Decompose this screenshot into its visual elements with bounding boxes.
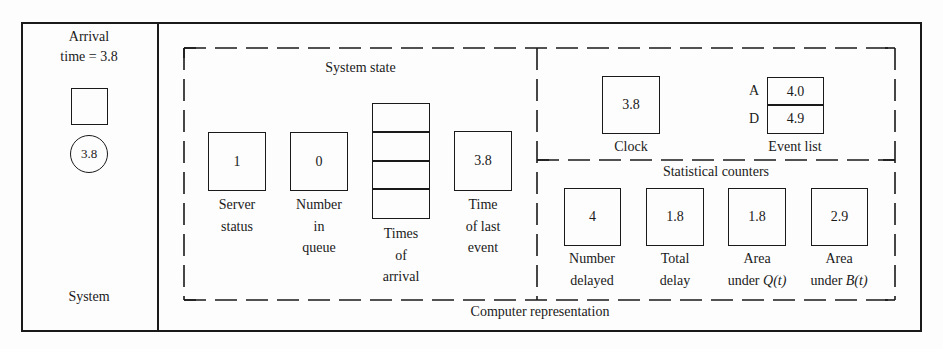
- server-status-box: 1: [208, 132, 266, 191]
- event-time-a: 4.0: [767, 77, 824, 106]
- arrival-slot-1: [372, 103, 430, 133]
- area-under-q-prefix: under: [728, 273, 763, 288]
- clock-box: 3.8: [602, 76, 660, 134]
- system-state-title: System state: [184, 60, 537, 76]
- computer-representation-label: Computer representation: [440, 304, 640, 320]
- number-delayed-label-2: delayed: [552, 271, 632, 291]
- total-delay-label-2: delay: [635, 271, 715, 291]
- arrival-slot-4: [372, 188, 430, 219]
- area-under-b-box: 2.9: [811, 188, 868, 246]
- clock-label: Clock: [591, 137, 671, 157]
- statistical-counters-title: Statistical counters: [537, 164, 895, 180]
- system-label: System: [21, 287, 157, 307]
- arrival-slot-2: [372, 131, 430, 162]
- times-of-arrival-label-2: of: [361, 246, 441, 266]
- customer-circle: 3.8: [70, 135, 108, 173]
- number-in-queue-label-2: in: [279, 217, 359, 237]
- event-type-a: A: [746, 81, 762, 101]
- number-in-queue-label-3: queue: [279, 238, 359, 258]
- area-under-b-prefix: under: [810, 273, 845, 288]
- area-under-q-label-1: Area: [717, 249, 797, 269]
- number-in-queue-label-1: Number: [279, 195, 359, 215]
- area-under-b-label-2: under B(t): [789, 271, 889, 291]
- number-delayed-box: 4: [564, 188, 621, 246]
- server-status-label-2: status: [197, 217, 277, 237]
- arrival-label-line1: Arrival: [21, 27, 157, 47]
- times-of-arrival-label-1: Times: [361, 224, 441, 244]
- area-under-b-var: B(t): [846, 273, 868, 288]
- number-delayed-label-1: Number: [552, 249, 632, 269]
- arrival-label-line2: time = 3.8: [21, 47, 157, 67]
- event-list-label: Event list: [755, 137, 835, 157]
- times-of-arrival-label-3: arrival: [361, 267, 441, 287]
- total-delay-label-1: Total: [635, 249, 715, 269]
- time-of-last-event-label-3: event: [443, 238, 523, 258]
- total-delay-box: 1.8: [646, 188, 704, 246]
- area-under-q-var: Q(t): [763, 273, 786, 288]
- number-in-queue-box: 0: [290, 132, 348, 191]
- area-under-q-box: 1.8: [728, 188, 786, 246]
- time-of-last-event-box: 3.8: [454, 131, 512, 191]
- event-time-d: 4.9: [767, 104, 824, 134]
- server-status-label-1: Server: [197, 195, 277, 215]
- event-type-d: D: [746, 109, 762, 129]
- arrival-slot-3: [372, 160, 430, 190]
- area-under-b-label-1: Area: [799, 249, 879, 269]
- time-of-last-event-label-1: Time: [443, 195, 523, 215]
- time-of-last-event-label-2: of last: [443, 217, 523, 237]
- server-box: [71, 88, 108, 125]
